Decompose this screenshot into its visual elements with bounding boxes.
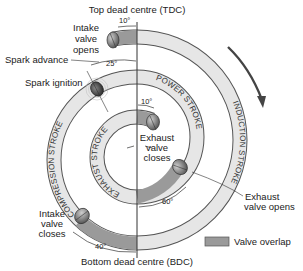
- spark-advance-label: Spark advance: [5, 54, 68, 65]
- legend-swatch-overlap: [205, 237, 229, 246]
- legend-label-overlap: Valve overlap: [234, 236, 291, 247]
- exhaust-opens-label: Exhaust valve opens: [244, 191, 295, 212]
- exhaust-closes-label: Exhaust valve closes: [140, 132, 175, 163]
- svg-text:closes: closes: [144, 152, 171, 163]
- angle-exhaust-close: 10°: [141, 97, 152, 106]
- legend: Valve overlap: [205, 236, 291, 247]
- intake-opens-label: Intake valve opens: [73, 22, 99, 55]
- angle-intake-close: 40°: [95, 242, 106, 251]
- angle-spark-advance: 25°: [106, 59, 117, 68]
- intake-closes-label: Intake valve closes: [39, 208, 66, 239]
- valve-timing-diagram: INDUCTION STROKE COMPRESSION STROKE POWE…: [0, 0, 303, 271]
- bdc-label: Bottom dead centre (BDC): [81, 256, 193, 267]
- svg-text:valve opens: valve opens: [244, 201, 295, 212]
- svg-text:valve: valve: [75, 33, 97, 44]
- svg-text:Intake: Intake: [73, 22, 99, 33]
- tdc-label: Top dead centre (TDC): [89, 4, 186, 15]
- angle-exhaust-open: 60°: [162, 197, 173, 206]
- exhaust-close-valve-icon: [147, 114, 160, 130]
- spark-ignition-label: Spark ignition: [25, 77, 83, 88]
- svg-text:closes: closes: [39, 228, 66, 239]
- svg-text:opens: opens: [73, 44, 99, 55]
- angle-intake-open: 10°: [119, 16, 130, 25]
